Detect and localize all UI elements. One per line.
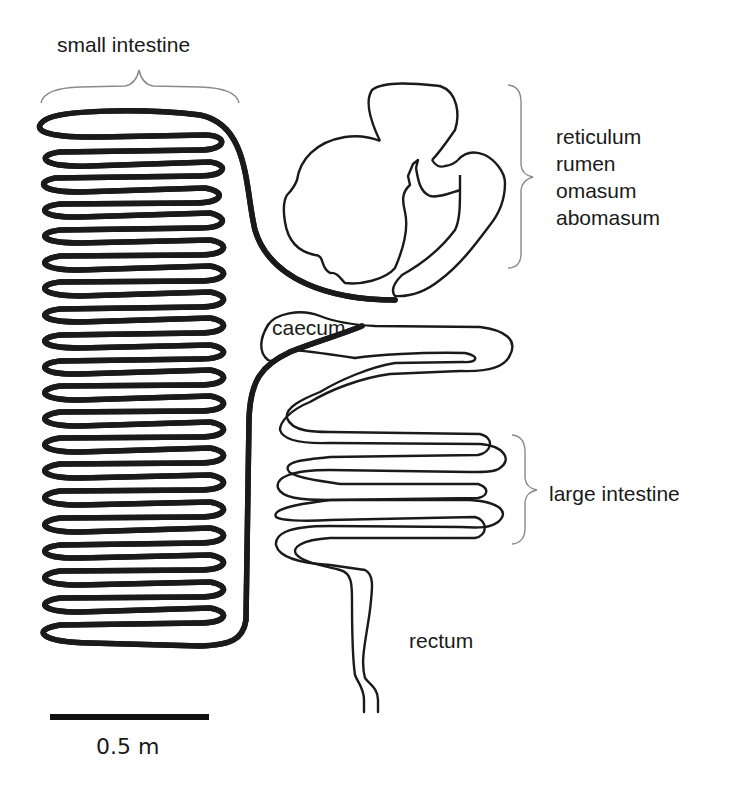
stomach-outline (284, 84, 505, 297)
label-reticulum: reticulum (556, 123, 660, 150)
scale-bar-label: 0.5 m (96, 736, 159, 758)
large-intestine-outline (261, 312, 512, 712)
large-intestine-brace (512, 435, 537, 544)
label-small-intestine: small intestine (57, 34, 190, 55)
stomach-labels: reticulum rumen omasum abomasum (556, 123, 660, 231)
label-rumen: rumen (556, 150, 660, 177)
label-caecum: caecum (272, 317, 346, 338)
label-rectum: rectum (409, 630, 473, 651)
stomach-brace (508, 85, 533, 268)
label-omasum: omasum (556, 177, 660, 204)
label-large-intestine: large intestine (549, 483, 680, 504)
scale-bar (50, 714, 209, 720)
small-intestine-brace (41, 70, 239, 103)
label-abomasum: abomasum (556, 204, 660, 231)
digestive-tract-diagram (0, 0, 737, 792)
